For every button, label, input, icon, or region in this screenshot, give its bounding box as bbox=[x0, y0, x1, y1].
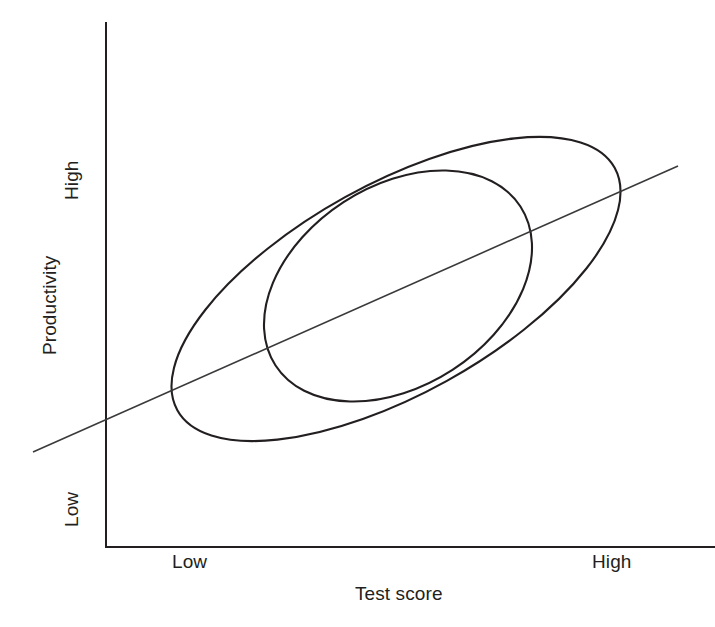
plot-background bbox=[0, 0, 715, 627]
y-axis-tick-low: Low bbox=[62, 492, 81, 527]
scatter-envelope-plot bbox=[0, 0, 715, 627]
chart-figure: High Productivity Low Low High Test scor… bbox=[0, 0, 715, 627]
x-axis-title: Test score bbox=[355, 584, 443, 603]
y-axis-title: Productivity bbox=[40, 256, 59, 355]
x-axis-tick-low: Low bbox=[172, 552, 207, 571]
y-axis-tick-high: High bbox=[62, 161, 81, 200]
x-axis-tick-high: High bbox=[592, 552, 631, 571]
